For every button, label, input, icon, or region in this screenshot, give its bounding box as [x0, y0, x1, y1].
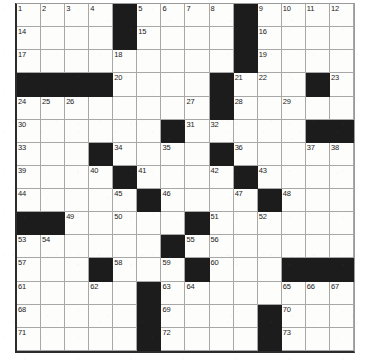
- letter-square[interactable]: [41, 120, 65, 143]
- letter-square[interactable]: 64: [185, 282, 209, 305]
- letter-square[interactable]: 31: [185, 120, 209, 143]
- letter-square[interactable]: 14: [17, 27, 41, 50]
- letter-square[interactable]: [65, 27, 89, 50]
- letter-square[interactable]: [330, 212, 354, 235]
- letter-square[interactable]: 56: [210, 235, 234, 258]
- letter-square[interactable]: 7: [185, 4, 209, 27]
- letter-square[interactable]: [306, 189, 330, 212]
- letter-square[interactable]: [113, 328, 137, 351]
- letter-square[interactable]: 20: [113, 73, 137, 96]
- letter-square[interactable]: [89, 97, 113, 120]
- letter-square[interactable]: [41, 166, 65, 189]
- letter-square[interactable]: [137, 143, 161, 166]
- letter-square[interactable]: 65: [282, 282, 306, 305]
- letter-square[interactable]: 10: [282, 4, 306, 27]
- letter-square[interactable]: [161, 50, 185, 73]
- letter-square[interactable]: [282, 143, 306, 166]
- letter-square[interactable]: [185, 189, 209, 212]
- letter-square[interactable]: 19: [258, 50, 282, 73]
- letter-square[interactable]: [65, 305, 89, 328]
- letter-square[interactable]: [330, 27, 354, 50]
- letter-square[interactable]: 72: [161, 328, 185, 351]
- letter-square[interactable]: [65, 50, 89, 73]
- letter-square[interactable]: [330, 97, 354, 120]
- letter-square[interactable]: [234, 212, 258, 235]
- crossword-grid[interactable]: 1234567891011121415161718192021222324252…: [15, 3, 355, 353]
- letter-square[interactable]: 23: [330, 73, 354, 96]
- letter-square[interactable]: 49: [65, 212, 89, 235]
- letter-square[interactable]: [234, 305, 258, 328]
- letter-square[interactable]: [161, 27, 185, 50]
- letter-square[interactable]: [234, 258, 258, 281]
- letter-square[interactable]: 36: [234, 143, 258, 166]
- letter-square[interactable]: [137, 50, 161, 73]
- letter-square[interactable]: [185, 143, 209, 166]
- letter-square[interactable]: 55: [185, 235, 209, 258]
- letter-square[interactable]: [41, 27, 65, 50]
- letter-square[interactable]: [137, 120, 161, 143]
- letter-square[interactable]: 42: [210, 166, 234, 189]
- letter-square[interactable]: [210, 305, 234, 328]
- letter-square[interactable]: [234, 235, 258, 258]
- letter-square[interactable]: 2: [41, 4, 65, 27]
- letter-square[interactable]: 59: [161, 258, 185, 281]
- letter-square[interactable]: [258, 282, 282, 305]
- letter-square[interactable]: [234, 120, 258, 143]
- letter-square[interactable]: [258, 120, 282, 143]
- letter-square[interactable]: 21: [234, 73, 258, 96]
- letter-square[interactable]: 69: [161, 305, 185, 328]
- letter-square[interactable]: 51: [210, 212, 234, 235]
- letter-square[interactable]: [306, 328, 330, 351]
- letter-square[interactable]: [41, 143, 65, 166]
- letter-square[interactable]: 70: [282, 305, 306, 328]
- letter-square[interactable]: [234, 328, 258, 351]
- letter-square[interactable]: [258, 235, 282, 258]
- letter-square[interactable]: 15: [137, 27, 161, 50]
- letter-square[interactable]: 28: [234, 97, 258, 120]
- letter-square[interactable]: [306, 50, 330, 73]
- letter-square[interactable]: [185, 73, 209, 96]
- letter-square[interactable]: [210, 27, 234, 50]
- letter-square[interactable]: [65, 328, 89, 351]
- letter-square[interactable]: [258, 143, 282, 166]
- letter-square[interactable]: [258, 258, 282, 281]
- letter-square[interactable]: [210, 189, 234, 212]
- letter-square[interactable]: 27: [185, 97, 209, 120]
- letter-square[interactable]: [41, 189, 65, 212]
- letter-square[interactable]: 16: [258, 27, 282, 50]
- letter-square[interactable]: [330, 50, 354, 73]
- letter-square[interactable]: 46: [161, 189, 185, 212]
- letter-square[interactable]: 53: [17, 235, 41, 258]
- letter-square[interactable]: 26: [65, 97, 89, 120]
- letter-square[interactable]: [330, 235, 354, 258]
- letter-square[interactable]: [89, 189, 113, 212]
- letter-square[interactable]: 24: [17, 97, 41, 120]
- letter-square[interactable]: [89, 235, 113, 258]
- letter-square[interactable]: 58: [113, 258, 137, 281]
- letter-square[interactable]: 40: [89, 166, 113, 189]
- letter-square[interactable]: [185, 166, 209, 189]
- letter-square[interactable]: [41, 282, 65, 305]
- letter-square[interactable]: 52: [258, 212, 282, 235]
- letter-square[interactable]: [185, 27, 209, 50]
- letter-square[interactable]: [41, 50, 65, 73]
- letter-square[interactable]: [330, 166, 354, 189]
- letter-square[interactable]: [65, 143, 89, 166]
- letter-square[interactable]: 18: [113, 50, 137, 73]
- letter-square[interactable]: [65, 235, 89, 258]
- letter-square[interactable]: [185, 328, 209, 351]
- letter-square[interactable]: [137, 97, 161, 120]
- letter-square[interactable]: 48: [282, 189, 306, 212]
- letter-square[interactable]: 67: [330, 282, 354, 305]
- letter-square[interactable]: [330, 305, 354, 328]
- letter-square[interactable]: [65, 258, 89, 281]
- letter-square[interactable]: [113, 120, 137, 143]
- letter-square[interactable]: 43: [258, 166, 282, 189]
- letter-square[interactable]: [137, 258, 161, 281]
- letter-square[interactable]: 29: [282, 97, 306, 120]
- letter-square[interactable]: 66: [306, 282, 330, 305]
- letter-square[interactable]: [282, 120, 306, 143]
- letter-square[interactable]: 4: [89, 4, 113, 27]
- letter-square[interactable]: [161, 73, 185, 96]
- letter-square[interactable]: [41, 258, 65, 281]
